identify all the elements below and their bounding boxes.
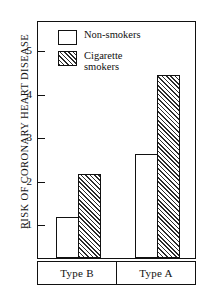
y-tick-mark-3 <box>38 138 45 139</box>
legend-swatch-hatched-icon <box>58 51 77 66</box>
legend: Non-smokers Cigarette smokers <box>58 29 186 77</box>
y-tick-label-1: 1 <box>18 219 32 230</box>
legend-swatch-open-icon <box>58 30 77 45</box>
y-tick-mark-1 <box>38 225 45 226</box>
bar-type-a-cigarette-smokers <box>157 75 180 258</box>
chart-figure: RISK OF CORONARY HEART DISEASE 5 4 3 2 1… <box>0 0 206 293</box>
y-tick-label-2: 2 <box>18 176 32 187</box>
category-cell-type-b: Type B <box>38 262 116 284</box>
legend-label-non-smokers: Non-smokers <box>84 29 141 40</box>
bar-type-b-non-smokers <box>56 217 79 258</box>
y-tick-label-3: 3 <box>18 132 32 143</box>
category-cell-type-a: Type A <box>116 262 195 284</box>
y-tick-mark-4 <box>38 95 45 96</box>
y-tick-mark-2 <box>38 182 45 183</box>
y-tick-mark-5 <box>38 51 45 52</box>
legend-item-non-smokers: Non-smokers <box>58 29 186 45</box>
y-tick-label-4: 4 <box>18 89 32 100</box>
category-axis: Type B Type A <box>37 261 196 285</box>
bar-type-a-non-smokers <box>135 154 158 258</box>
legend-label-cigarette-smokers: Cigarette smokers <box>84 50 122 72</box>
legend-item-cigarette-smokers: Cigarette smokers <box>58 50 186 72</box>
bar-type-b-cigarette-smokers <box>78 174 101 258</box>
plot-area: Non-smokers Cigarette smokers <box>37 21 196 259</box>
y-tick-label-5: 5 <box>18 45 32 56</box>
